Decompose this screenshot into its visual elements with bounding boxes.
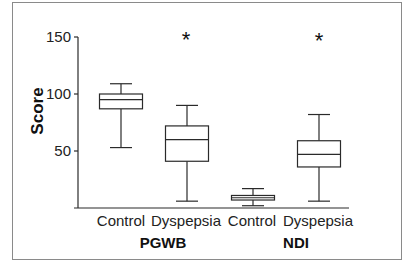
y-axis: 150 100 50 — [46, 28, 78, 208]
y-tick-label-150: 150 — [46, 28, 71, 45]
group-label-ndi: NDI — [283, 234, 309, 251]
box-ndi-dyspepsia — [298, 115, 341, 202]
x-label-ndi-control: Control — [228, 212, 276, 229]
box-ndi-control — [232, 189, 275, 206]
y-axis-label: Score — [28, 87, 47, 134]
box-plot-chart: Score 150 100 50 * * Control Dyspepsia C… — [0, 0, 412, 280]
significance-marker-ndi-dyspepsia: * — [315, 28, 324, 53]
y-tick-label-100: 100 — [46, 85, 71, 102]
group-label-pgwb: PGWB — [140, 234, 187, 251]
box-series — [100, 84, 341, 206]
x-label-pgwb-dyspepsia: Dyspepsia — [151, 212, 222, 229]
iqr-box — [166, 126, 209, 161]
y-tick-label-50: 50 — [54, 142, 71, 159]
x-label-pgwb-control: Control — [97, 212, 145, 229]
box-pgwb-control — [100, 84, 143, 148]
significance-marker-pgwb-dyspepsia: * — [182, 27, 191, 52]
box-pgwb-dyspepsia — [166, 105, 209, 201]
iqr-box — [100, 94, 143, 109]
x-label-ndi-dyspepsia: Dyspepsia — [283, 212, 354, 229]
